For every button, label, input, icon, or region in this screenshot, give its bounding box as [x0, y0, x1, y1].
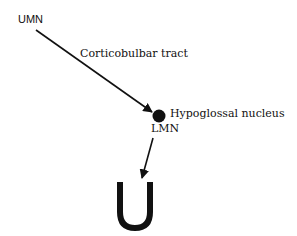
- hypoglossal-nucleus-dot: [153, 110, 166, 123]
- corticobulbar-tract-label: Corticobulbar tract: [80, 47, 188, 60]
- hypoglossal-nucleus-label: Hypoglossal nucleus: [170, 107, 285, 120]
- tongue-u-icon: [120, 182, 150, 228]
- diagram-canvas: UMN Corticobulbar tract Hypoglossal nucl…: [0, 0, 297, 236]
- umn-label: UMN: [18, 13, 43, 25]
- lmn-arrow: [142, 138, 153, 178]
- lmn-label: LMN: [151, 122, 179, 135]
- corticobulbar-arrow: [36, 30, 152, 112]
